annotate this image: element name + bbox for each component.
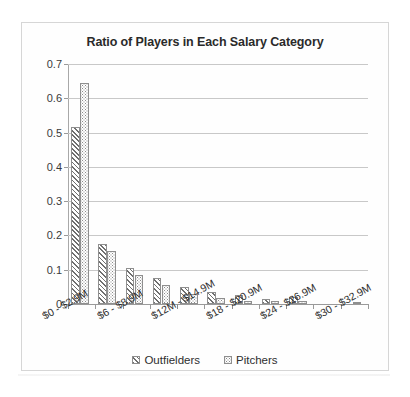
bar-group bbox=[341, 64, 368, 304]
bar-group bbox=[313, 64, 340, 304]
y-tick-label: 0.5 bbox=[47, 127, 62, 139]
diagonal-hatch-swatch bbox=[132, 356, 140, 364]
y-tick-label: 0.4 bbox=[47, 161, 62, 173]
bar-group bbox=[259, 64, 286, 304]
y-tick-label: 0.3 bbox=[47, 195, 62, 207]
bar-outfielders bbox=[71, 127, 80, 304]
x-tick-label: $0 - $2.9M bbox=[40, 287, 90, 322]
bar-pitchers bbox=[80, 83, 89, 304]
bars-layer bbox=[68, 64, 368, 304]
plot-area: 0.70.60.50.40.30.20.10 $0 - $2.9M$6 - $8… bbox=[68, 64, 368, 304]
scan-edge-artifact bbox=[18, 374, 390, 376]
x-tick-mark bbox=[368, 304, 369, 309]
y-tick-label: 0.7 bbox=[47, 58, 62, 70]
y-tick-label: 0.6 bbox=[47, 92, 62, 104]
bar-group bbox=[177, 64, 204, 304]
bar-outfielders bbox=[153, 278, 162, 304]
bar-pitchers bbox=[107, 251, 116, 304]
y-tick-label: 0.1 bbox=[47, 264, 62, 276]
bar-group bbox=[232, 64, 259, 304]
dotted-swatch bbox=[224, 356, 232, 364]
bar-group bbox=[68, 64, 95, 304]
legend-item[interactable]: Outfielders bbox=[132, 354, 200, 366]
chart-title: Ratio of Players in Each Salary Category bbox=[22, 35, 388, 49]
bar-group bbox=[286, 64, 313, 304]
bar-group bbox=[123, 64, 150, 304]
legend-label: Outfielders bbox=[144, 354, 200, 366]
bar-group bbox=[204, 64, 231, 304]
bar-group bbox=[150, 64, 177, 304]
chart-legend: OutfieldersPitchers bbox=[22, 354, 388, 366]
legend-label: Pitchers bbox=[236, 354, 278, 366]
y-tick-label: 0.2 bbox=[47, 229, 62, 241]
bar-group bbox=[95, 64, 122, 304]
legend-item[interactable]: Pitchers bbox=[224, 354, 278, 366]
chart-container: Ratio of Players in Each Salary Category… bbox=[21, 22, 389, 371]
bar-outfielders bbox=[207, 292, 216, 304]
bar-outfielders bbox=[98, 244, 107, 304]
